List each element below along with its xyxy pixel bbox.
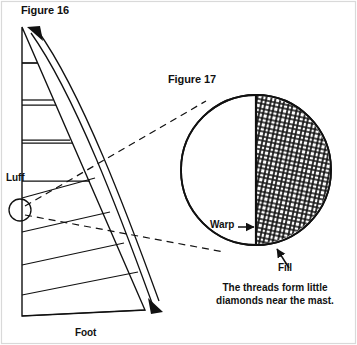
- figure-17-title: Figure 17: [168, 73, 216, 85]
- caption-line-2: diamonds near the mast.: [200, 294, 350, 307]
- figure-caption: The threads form little diamonds near th…: [200, 281, 350, 307]
- caption-line-1: The threads form little: [200, 281, 350, 294]
- figure-16-title: Figure 16: [21, 4, 69, 16]
- sail-outline: [22, 27, 145, 316]
- warp-label: Warp: [210, 219, 234, 230]
- fill-label: Fill: [278, 262, 292, 273]
- weave-diagram: [181, 95, 331, 268]
- figure-root: Figure 16 Figure 17 Luff Foot Warp Fill …: [0, 0, 357, 345]
- sail-diagram: [9, 26, 163, 316]
- luff-label: Luff: [6, 172, 24, 183]
- mast-arrow-bottom-icon: [148, 298, 163, 314]
- foot-label: Foot: [75, 327, 96, 338]
